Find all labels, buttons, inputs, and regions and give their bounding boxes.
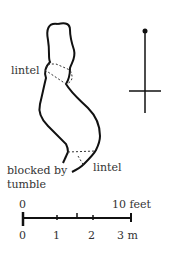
lintel-lower-dashed	[68, 151, 96, 166]
scale-m-2: 2	[88, 230, 95, 242]
passage-wall-left	[39, 24, 68, 152]
passage-wall-right	[58, 23, 100, 172]
label-blocked-1: blocked by	[7, 165, 67, 177]
scale-feet-10: 10 feet	[112, 199, 151, 211]
scale-feet-0: 0	[19, 199, 26, 211]
scale-m-1: 1	[53, 230, 60, 242]
label-lintel-upper: lintel	[11, 65, 40, 77]
scale-m-3: 3 m	[117, 230, 138, 242]
label-blocked-2: tumble	[7, 179, 46, 191]
north-arrow-tip	[143, 29, 148, 34]
passage-wall-left-end	[63, 152, 68, 163]
scale-m-0: 0	[19, 230, 26, 242]
plan-drawing	[0, 0, 181, 253]
label-lintel-lower: lintel	[93, 162, 122, 174]
